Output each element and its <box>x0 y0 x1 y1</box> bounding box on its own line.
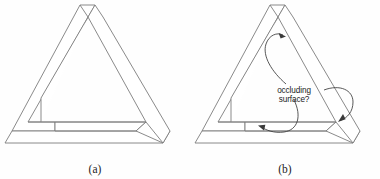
occluding-surface-label-line2: surface? <box>266 95 322 104</box>
penrose-left-beam <box>12 5 95 131</box>
caption-a: (a) <box>0 163 190 175</box>
penrose-triangle-a <box>0 0 190 160</box>
penrose-left-beam <box>202 5 285 131</box>
caption-b: (b) <box>190 163 380 175</box>
occluding-surface-label-line1: occluding <box>266 86 322 95</box>
panel-b: occluding surface? (b) <box>190 0 380 179</box>
penrose-triangle-b <box>190 0 380 160</box>
panel-a: (a) <box>0 0 190 179</box>
occluding-surface-label: occluding surface? <box>266 86 322 105</box>
figure-root: (a) occluding surface? <box>0 0 380 179</box>
